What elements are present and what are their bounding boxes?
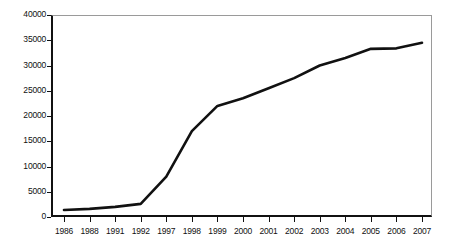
y-tick-label: 15000 bbox=[2, 136, 46, 145]
x-tick-mark bbox=[243, 217, 244, 222]
y-tick-mark bbox=[47, 40, 51, 41]
line-chart: 0500010000150002000025000300003500040000… bbox=[0, 0, 459, 250]
y-tick-mark bbox=[47, 167, 51, 168]
data-series-line bbox=[64, 43, 422, 210]
y-tick-mark bbox=[47, 91, 51, 92]
y-axis: 0500010000150002000025000300003500040000 bbox=[0, 0, 46, 250]
x-axis: 1986198819911992199719981999200020012002… bbox=[0, 226, 459, 242]
y-tick-mark bbox=[47, 141, 51, 142]
y-tick-mark bbox=[47, 217, 51, 218]
y-tick-label: 40000 bbox=[2, 10, 46, 19]
y-tick-mark bbox=[47, 192, 51, 193]
y-tick-label: 25000 bbox=[2, 86, 46, 95]
x-tick-mark bbox=[345, 217, 346, 222]
y-tick-label: 20000 bbox=[2, 111, 46, 120]
x-tick-mark bbox=[115, 217, 116, 222]
x-tick-mark bbox=[166, 217, 167, 222]
x-tick-mark bbox=[141, 217, 142, 222]
y-tick-label: 10000 bbox=[2, 162, 46, 171]
y-tick-label: 35000 bbox=[2, 35, 46, 44]
x-tick-mark bbox=[64, 217, 65, 222]
y-tick-label: 0 bbox=[2, 212, 46, 221]
plot-area bbox=[51, 15, 432, 217]
y-tick-label: 30000 bbox=[2, 61, 46, 70]
x-tick-mark bbox=[192, 217, 193, 222]
x-tick-mark bbox=[269, 217, 270, 222]
x-tick-mark bbox=[371, 217, 372, 222]
x-tick-mark bbox=[320, 217, 321, 222]
y-tick-label: 5000 bbox=[2, 187, 46, 196]
x-tick-mark bbox=[396, 217, 397, 222]
x-tick-mark bbox=[90, 217, 91, 222]
y-tick-mark bbox=[47, 116, 51, 117]
x-tick-mark bbox=[422, 217, 423, 222]
y-tick-mark bbox=[47, 66, 51, 67]
x-tick-mark bbox=[217, 217, 218, 222]
y-tick-mark bbox=[47, 15, 51, 16]
x-tick-mark bbox=[294, 217, 295, 222]
x-tick-label: 2007 bbox=[402, 226, 442, 236]
